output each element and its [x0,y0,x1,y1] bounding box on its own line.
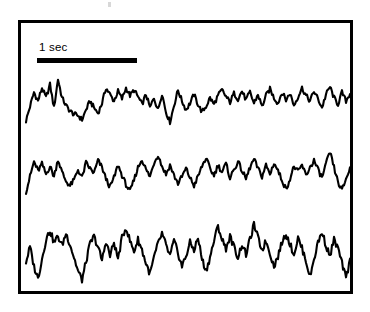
trace-2-path [26,153,350,193]
scale-bar-line [37,58,137,63]
figure-panel: 1 sec [18,20,353,294]
scale-bar: 1 sec [37,41,157,63]
trace-1-path [26,80,350,124]
scale-bar-label: 1 sec [37,41,157,54]
traces-area [21,23,350,291]
trace-3-path [26,222,350,283]
scan-artifact [108,2,111,7]
traces-svg [21,23,350,291]
